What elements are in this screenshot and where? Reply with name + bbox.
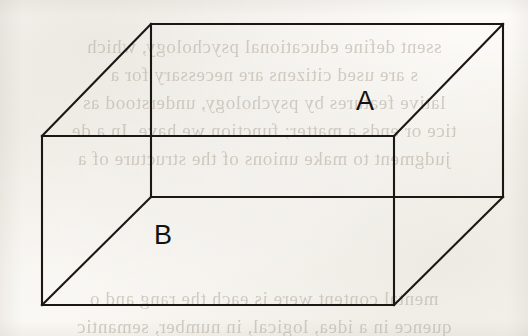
face-label-a: A bbox=[356, 88, 374, 115]
edge-depth-bottom-left bbox=[42, 197, 151, 305]
box-figure bbox=[0, 0, 528, 336]
box-wireframe bbox=[42, 24, 503, 305]
scanned-page: ssent define educational psychology, whi… bbox=[0, 0, 528, 336]
edge-depth-top-right bbox=[394, 24, 503, 136]
face-label-b: B bbox=[154, 222, 172, 249]
edge-depth-top-left bbox=[42, 24, 151, 136]
edge-depth-bottom-right bbox=[394, 197, 503, 305]
